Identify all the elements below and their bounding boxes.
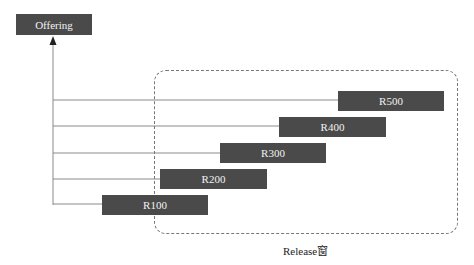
release-node-r500: R500 [338,91,444,111]
release-window-caption: Release窗 [283,242,328,258]
release-node-r400: R400 [279,117,386,137]
release-node-r300: R300 [220,143,326,163]
release-node-r200: R200 [160,169,267,189]
arrow-head-icon [50,36,57,45]
release-node-r100: R100 [102,195,208,215]
